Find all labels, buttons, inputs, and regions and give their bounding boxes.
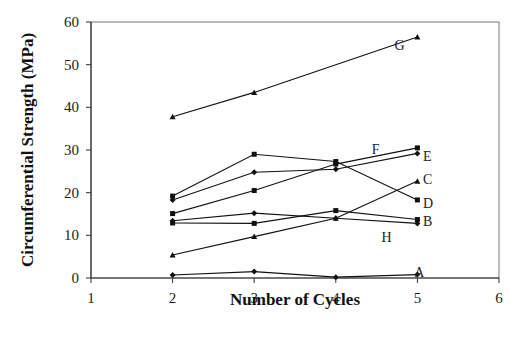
y-tick-label: 60 — [64, 14, 79, 30]
series-label-F: F — [372, 142, 380, 157]
data-point — [415, 197, 420, 202]
data-point — [333, 208, 338, 213]
data-point — [333, 162, 338, 167]
x-tick-label: 2 — [169, 290, 177, 306]
y-tick-label: 0 — [72, 270, 80, 286]
series-label-B: B — [423, 214, 432, 229]
data-point — [252, 221, 257, 226]
x-tick-label: 6 — [495, 290, 503, 306]
data-point — [252, 152, 257, 157]
y-tick-label: 20 — [64, 185, 79, 201]
y-axis-title: Circumferential Strength (MPa) — [18, 33, 37, 267]
data-point — [415, 145, 420, 150]
data-point — [170, 211, 175, 216]
x-tick-label: 1 — [87, 290, 95, 306]
plot-area — [91, 22, 499, 278]
x-axis-title: Number of Cycles — [230, 290, 360, 309]
series-label-D: D — [423, 196, 433, 211]
series-label-E: E — [423, 149, 432, 164]
y-axis: 0102030405060 — [64, 14, 91, 286]
series-label-G: G — [395, 38, 405, 53]
x-tick-label: 5 — [414, 290, 422, 306]
series-label-H: H — [381, 230, 391, 245]
data-point — [252, 188, 257, 193]
series-label-C: C — [423, 172, 432, 187]
y-tick-label: 30 — [64, 142, 79, 158]
y-tick-label: 40 — [64, 99, 79, 115]
series-label-A: A — [414, 265, 425, 280]
y-tick-label: 10 — [64, 227, 79, 243]
y-tick-label: 50 — [64, 57, 79, 73]
line-chart: 0102030405060 123456 GFECDBHA Number of … — [0, 0, 518, 355]
